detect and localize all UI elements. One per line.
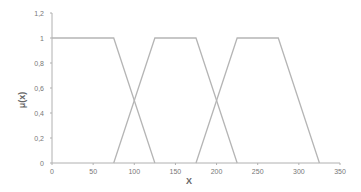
x-tick-label: 250: [252, 168, 264, 175]
x-axis-label: X: [186, 176, 192, 186]
y-axis-label: μ(x): [17, 92, 27, 109]
x-tick-label: 200: [211, 168, 223, 175]
series-lines: [52, 38, 319, 163]
y-tick-label: 0: [40, 160, 44, 167]
y-tick-label: 0,8: [34, 60, 44, 67]
y-tick-label: 1: [40, 35, 44, 42]
y-tick-label: 0,4: [34, 110, 44, 117]
trapezoid-1-line: [52, 38, 155, 163]
x-axis-ticks: 050100150200250300350: [50, 163, 346, 175]
trapezoid-2-line: [114, 38, 237, 163]
x-tick-label: 150: [170, 168, 182, 175]
y-axis-ticks: 00,20,40,60,811,2: [34, 10, 52, 167]
y-tick-label: 0,2: [34, 135, 44, 142]
x-tick-label: 100: [128, 168, 140, 175]
x-tick-label: 50: [89, 168, 97, 175]
x-tick-label: 350: [334, 168, 346, 175]
membership-function-chart: 00,20,40,60,811,2 050100150200250300350 …: [0, 0, 361, 192]
y-tick-label: 1,2: [34, 10, 44, 17]
x-tick-label: 300: [293, 168, 305, 175]
y-tick-label: 0,6: [34, 85, 44, 92]
x-tick-label: 0: [50, 168, 54, 175]
trapezoid-3-line: [196, 38, 319, 163]
